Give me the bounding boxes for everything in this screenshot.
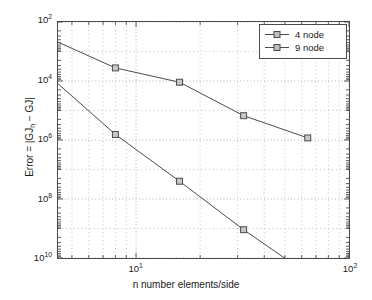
x-axis-title: n number elements/side — [0, 279, 372, 290]
legend-box: 4 node 9 node — [259, 24, 347, 59]
data-point-9-node-2 — [177, 178, 183, 184]
y-tick-label-3: 108 — [38, 194, 52, 204]
data-point-9-node-1 — [112, 132, 118, 138]
y-tick-label-1: 104 — [38, 75, 52, 85]
y-axis-title: Error = |GJh − GJ| — [24, 97, 35, 177]
figure-canvas: 1021041061081010 101102 n number element… — [0, 0, 372, 300]
legend-label-9-node: 9 node — [295, 42, 324, 53]
legend-entry-4-node[interactable]: 4 node — [264, 28, 342, 41]
legend-entry-9-node[interactable]: 9 node — [264, 41, 342, 54]
data-point-4-node-1 — [112, 65, 118, 71]
y-tick-label-0: 102 — [38, 15, 52, 25]
y-axis-title-prefix: Error = |GJ — [24, 128, 35, 177]
y-axis-title-suffix: − GJ| — [24, 97, 35, 124]
y-axis-title-wrapper: Error = |GJh − GJ| — [19, 47, 37, 227]
legend-sample-9-node — [264, 42, 290, 53]
y-axis-title-subscript: h — [29, 124, 36, 128]
legend-label-4-node: 4 node — [295, 29, 324, 40]
legend-sample-4-node — [264, 29, 290, 40]
data-point-9-node-3 — [241, 227, 247, 233]
y-tick-label-4: 1010 — [34, 253, 52, 263]
x-tick-label-0: 101 — [124, 264, 148, 274]
data-point-4-node-3 — [241, 113, 247, 119]
x-tick-label-1: 102 — [338, 264, 362, 274]
y-tick-label-2: 106 — [38, 134, 52, 144]
data-point-4-node-2 — [177, 79, 183, 85]
data-point-4-node-4 — [305, 135, 311, 141]
